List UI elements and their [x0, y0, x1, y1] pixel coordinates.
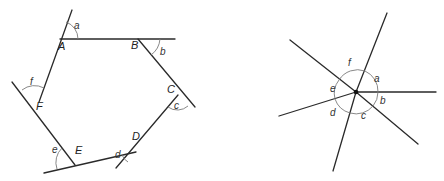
angle-label-e-point: e — [330, 83, 336, 94]
vertex-label-c: C — [167, 83, 175, 95]
angle-arc-b — [373, 92, 378, 106]
side-ef-extended — [12, 82, 75, 165]
ray-1 — [356, 13, 387, 92]
side-cd-extended — [116, 95, 178, 168]
angle-label-b-point: b — [380, 95, 386, 106]
angle-label-b: b — [160, 46, 166, 57]
vertex-label-f: F — [36, 100, 44, 112]
angles-around-point-figure: f a b c d e — [279, 13, 436, 171]
exterior-angle-arc-d — [122, 155, 128, 162]
vertex-label-b: B — [131, 39, 138, 51]
center-point — [354, 90, 359, 95]
angle-label-c-point: c — [361, 110, 366, 121]
hexagon-figure: A B C D E F a b c d e f — [12, 10, 195, 173]
angle-label-a-point: a — [374, 73, 380, 84]
exterior-angle-arc-f — [22, 86, 44, 90]
side-fa-extended — [39, 10, 72, 102]
angle-label-e: e — [52, 144, 58, 155]
ray-5 — [279, 92, 356, 116]
ray-6 — [290, 40, 356, 92]
angle-label-f-point: f — [348, 57, 352, 68]
angle-label-a: a — [74, 20, 80, 31]
angle-arc-d — [335, 99, 350, 113]
angle-label-d: d — [115, 149, 121, 160]
exterior-angle-arc-b — [151, 39, 160, 55]
angle-label-c: c — [174, 100, 179, 111]
angle-label-d-point: d — [330, 107, 336, 118]
diagram-canvas: A B C D E F a b c d e f f a b c — [0, 0, 444, 181]
vertex-label-a: A — [57, 40, 65, 52]
ray-4 — [333, 92, 356, 171]
vertex-label-d: D — [132, 130, 140, 142]
side-bc-extended — [138, 39, 195, 107]
vertex-label-e: E — [75, 144, 83, 156]
